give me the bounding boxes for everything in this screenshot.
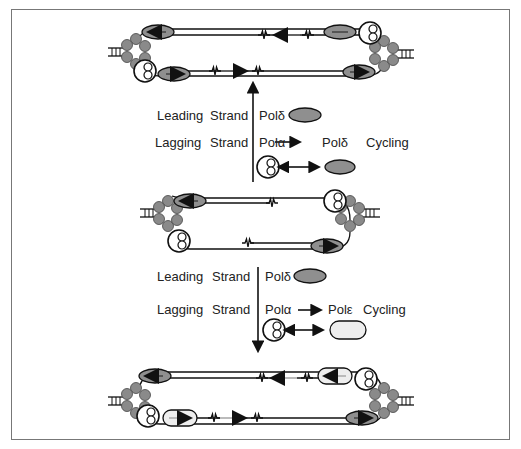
legend-pol-epsilon-icon xyxy=(330,321,366,339)
cycling-label: Cycling xyxy=(366,135,409,150)
lagging-from-polymerase-label: Polα xyxy=(265,302,291,317)
legend-pol-delta-icon xyxy=(294,269,326,283)
leading-polymerase-label: Polδ xyxy=(259,108,285,123)
pol-alpha-primase-icon xyxy=(134,60,156,82)
lagging-label: Lagging xyxy=(155,135,201,150)
replication-bubble-middle xyxy=(140,190,380,253)
pol-alpha-primase-icon xyxy=(168,230,190,252)
replication-bubble-top xyxy=(108,22,414,82)
leading-polymerase-label: Polδ xyxy=(265,269,291,284)
legend-pol-delta-icon xyxy=(325,160,355,174)
lagging-label: Lagging xyxy=(157,302,203,317)
lagging-from-polymerase-label: Polα xyxy=(259,135,285,150)
pol-alpha-primase-icon xyxy=(359,22,381,44)
legend-pol-delta-icon xyxy=(289,108,321,122)
lagging-to-polymerase-label: Polδ xyxy=(322,135,348,150)
strand-label: Strand xyxy=(210,108,248,123)
strand-label: Strand xyxy=(212,302,250,317)
cycling-label: Cycling xyxy=(363,302,406,317)
pol-alpha-primase-icon xyxy=(137,405,159,427)
pol-alpha-primase-icon xyxy=(355,368,377,390)
replication-bubble-bottom xyxy=(108,368,414,427)
legend-pol-alpha-icon xyxy=(263,319,285,341)
pol-alpha-primase-icon xyxy=(324,190,346,212)
strand-label: Strand xyxy=(212,269,250,284)
strand-label: Strand xyxy=(210,135,248,150)
lagging-to-polymerase-label: Polε xyxy=(328,302,353,317)
leading-label: Leading xyxy=(157,269,203,284)
legend-pol-alpha-icon xyxy=(257,156,279,178)
replication-diagram xyxy=(0,0,521,449)
leading-label: Leading xyxy=(157,108,203,123)
